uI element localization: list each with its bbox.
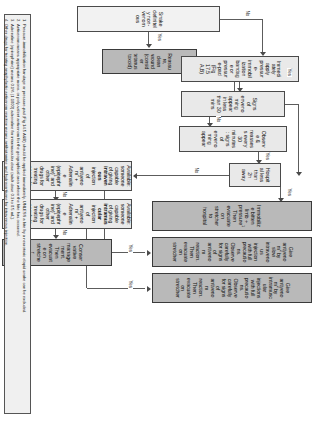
- node-observe-reassess[interactable]: Observe & reassess every 30 minutes: sig…: [179, 126, 287, 152]
- node-give-im-label: Give antivenom2 by intramuscular injecti…: [174, 277, 290, 299]
- edge-label-signs30-no: No: [216, 116, 221, 123]
- edge-availim-yes-v: [87, 288, 145, 289]
- footnote-item: 4.Other drugs for treating anaphylactic …: [2, 19, 8, 409]
- node-give-iv[interactable]: Give antivenom2 by slow intravenous inje…: [152, 237, 297, 267]
- edge-label-availim-yes: Yes: [128, 280, 133, 289]
- node-give-iv-label: Give antivenom2 by slow intravenous inje…: [171, 241, 293, 263]
- node-observe-reassess-label: Observe & reassess every 30 minutes: sig…: [200, 130, 265, 148]
- footnote-text: Adrenaline (epinephrine) means 0.1% (1:1…: [10, 24, 15, 220]
- arrow-availiv-yes: [147, 250, 151, 256]
- footnote-item: 3.Adrenaline (epinephrine) means 0.1% (1…: [9, 19, 15, 409]
- node-reassure-label: Reassure, clean wound (consider tetanus …: [127, 53, 173, 70]
- arrow-signs30-yes: [296, 172, 297, 176]
- arrow-hospital-no: [133, 173, 137, 179]
- node-snake-nonvenomous[interactable]: Snake definitely non-venomous: [77, 6, 220, 32]
- node-immobilize-evacuate[interactable]: Immobilize bitten limb + pressure1 Then …: [152, 201, 297, 231]
- edge-signs30-yes-v: [285, 104, 297, 105]
- footnote-text: Pressure-immobilization bandage or press…: [22, 24, 27, 313]
- flowchart-figure: Snake definitely non-venomous No Yes Rea…: [0, 0, 297, 429]
- footnotes-block: 1.Pressure-immobilization bandage or pre…: [4, 14, 31, 414]
- footnote-text: Antivenom means appropriate mono- or pol…: [16, 24, 21, 237]
- node-apply-pib-label: Immediately apply pressure-immobilizatio…: [199, 60, 282, 78]
- edge-label-availiv-yes: Yes: [128, 244, 133, 253]
- edge-nonvenomous-no-horizontal: [262, 19, 263, 53]
- arrow-availim-yes: [147, 286, 151, 292]
- node-immobilize-evacuate-label: Immobilize bitten limb + pressure1 Then …: [202, 205, 262, 227]
- arrow-nonvenomous-yes: [146, 44, 152, 48]
- edge-label-hospital-no: No: [194, 167, 199, 174]
- node-hospital-2h[interactable]: Hospital less than 2h away: [229, 163, 281, 187]
- node-apply-pib[interactable]: Immediately apply pressure-immobilizatio…: [181, 56, 297, 82]
- node-give-im[interactable]: Give antivenom2 by intramuscular injecti…: [152, 273, 297, 303]
- flowchart-canvas: Snake definitely non-venomous No Yes Rea…: [0, 0, 297, 429]
- edge-hospital-no-v: [134, 175, 229, 176]
- node-hospital-2h-label: Hospital less than 2h away: [240, 167, 270, 183]
- edge-label-signs30-yes: Yes: [287, 68, 292, 77]
- footnote-item: 1.Pressure-immobilization bandage or pre…: [21, 19, 27, 409]
- edge-label-availim-no: No: [62, 229, 67, 236]
- edge-nonvenomous-no-vertical: [220, 19, 263, 20]
- edge-label-availiv-no: No: [62, 191, 67, 198]
- footnote-item: 2.Antivenom means appropriate mono- or p…: [15, 19, 21, 409]
- edge-label-observe-yes: Yes: [265, 152, 270, 161]
- edge-label-nonvenomous-no: No: [245, 10, 250, 17]
- footnotes-list: 1.Pressure-immobilization bandage or pre…: [2, 19, 27, 409]
- node-snake-nonvenomous-label: Snake definitely non-venomous: [134, 10, 164, 28]
- edge-label-hospital-yes: Yes: [287, 188, 292, 197]
- node-conservative-label: Conservative management. Then evacuate o…: [30, 243, 84, 262]
- edge-label-nonvenomous-yes: Yes: [157, 33, 162, 42]
- footnote-text: Other drugs for treating anaphylactic an…: [4, 24, 9, 246]
- node-signs-envenoming-30[interactable]: Signs of envenoming appear in less than …: [181, 91, 285, 117]
- node-signs-envenoming-30-label: Signs of envenoming appear in less than …: [209, 95, 256, 113]
